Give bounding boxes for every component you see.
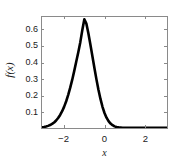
data-series-line	[42, 19, 167, 128]
y-tick-mark	[41, 63, 44, 64]
y-tick-mark	[164, 79, 167, 80]
y-tick-mark	[164, 29, 167, 30]
x-tick-mark	[64, 125, 65, 128]
x-tick-label: −2	[52, 133, 76, 144]
y-axis-label: f(x)	[3, 42, 15, 98]
y-tick-mark	[41, 96, 44, 97]
x-axis-label: x	[41, 147, 168, 158]
x-tick-mark	[105, 16, 106, 19]
y-tick-label: 0.1	[0, 107, 38, 117]
y-tick-mark	[41, 112, 44, 113]
x-tick-mark	[105, 125, 106, 128]
x-tick-mark	[145, 16, 146, 19]
y-tick-mark	[164, 63, 167, 64]
curve-svg	[42, 17, 167, 128]
y-tick-mark	[164, 46, 167, 47]
y-tick-mark	[164, 96, 167, 97]
x-tick-label: 0	[93, 133, 117, 144]
y-tick-mark	[41, 46, 44, 47]
chart-figure: 0.10.20.30.40.50.6 −202 x f(x)	[0, 0, 187, 166]
x-tick-label: 2	[133, 133, 157, 144]
x-tick-mark	[64, 16, 65, 19]
y-tick-label: 0.6	[0, 24, 38, 34]
y-tick-mark	[164, 112, 167, 113]
y-tick-mark	[41, 29, 44, 30]
x-tick-mark	[145, 125, 146, 128]
y-tick-mark	[41, 79, 44, 80]
plot-area	[41, 16, 168, 129]
